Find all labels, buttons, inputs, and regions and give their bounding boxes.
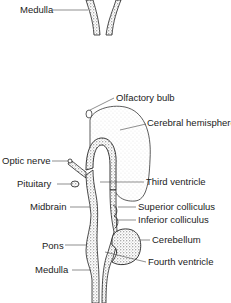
top-medulla-stem [53, 0, 121, 35]
label-inferior-colliculus: Inferior colliculus [138, 214, 209, 225]
label-optic-nerve: Optic nerve [2, 155, 51, 166]
brain-anatomy-diagram: Medulla Olfactory bulb Cerebral hemisphe… [0, 0, 231, 303]
label-olfactory-bulb: Olfactory bulb [116, 92, 175, 103]
label-superior-colliculus: Superior colliculus [138, 201, 215, 212]
label-medulla-top: Medulla [20, 4, 53, 15]
label-fourth-ventricle: Fourth ventricle [148, 256, 213, 267]
label-cerebral-hemisphere: Cerebral hemisphere [147, 117, 231, 128]
label-pituitary: Pituitary [17, 178, 51, 189]
label-midbrain: Midbrain [30, 201, 66, 212]
label-medulla: Medulla [35, 264, 68, 275]
label-pons: Pons [42, 240, 64, 251]
label-cerebellum: Cerebellum [152, 234, 201, 245]
label-third-ventricle: Third ventricle [146, 176, 206, 187]
